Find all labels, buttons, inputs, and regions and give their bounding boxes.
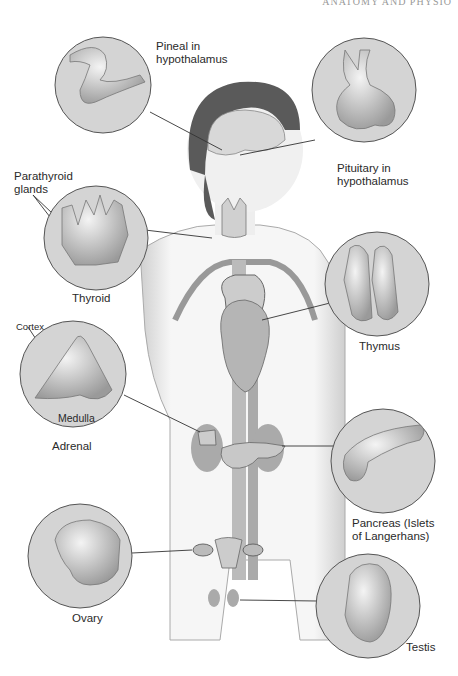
endocrine-illustration: [0, 0, 458, 676]
label-pineal: Pineal in hypothalamus: [156, 40, 228, 66]
label-thyroid: Thyroid: [72, 292, 110, 305]
label-medulla: Medulla: [58, 412, 95, 425]
label-adrenal: Adrenal: [52, 440, 92, 453]
body-figure: [140, 82, 345, 640]
label-thymus: Thymus: [359, 340, 400, 353]
label-testis: Testis: [406, 641, 435, 654]
label-ovary: Ovary: [72, 612, 103, 625]
label-pancreas: Pancreas (Islets of Langerhans): [352, 517, 434, 543]
label-cortex: Cortex: [16, 320, 44, 333]
label-parathyroid: Parathyroid glands: [14, 170, 73, 196]
label-pituitary: Pituitary in hypothalamus: [337, 162, 409, 188]
